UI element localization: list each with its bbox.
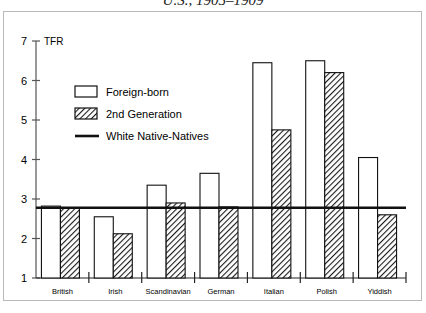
x-axis-label: Scandinavian	[146, 287, 191, 296]
bar	[359, 158, 378, 278]
x-axis-label: Irish	[108, 287, 122, 296]
x-axis-labels: BritishIrishScandinavianGermanItalianPol…	[52, 287, 392, 296]
y-axis-title: TFR	[44, 36, 63, 47]
figure: U.S., 1905–1909 1234567 TFR BritishIrish…	[0, 0, 426, 313]
bar	[94, 217, 113, 278]
bar	[253, 63, 272, 278]
legend: Foreign-born 2nd Generation White Native…	[75, 86, 209, 142]
y-tick-label: 3	[21, 193, 27, 205]
y-tick-label: 6	[21, 75, 27, 87]
legend-label-white-native-natives: White Native-Natives	[106, 130, 209, 142]
bar	[325, 73, 344, 278]
y-tick-label: 1	[21, 272, 27, 284]
y-tick-label: 5	[21, 114, 27, 126]
bar	[219, 207, 238, 278]
bar	[113, 234, 132, 278]
bar	[272, 130, 291, 278]
bar-chart: 1234567 TFR BritishIrishScandinavianGerm…	[0, 0, 426, 313]
x-axis-label: British	[52, 287, 73, 296]
bar	[60, 208, 79, 278]
bar	[306, 61, 325, 278]
x-axis-label: Italian	[264, 287, 284, 296]
x-axis-label: Yiddish	[367, 287, 391, 296]
bar	[147, 185, 166, 278]
legend-label-foreign-born: Foreign-born	[106, 86, 169, 98]
y-tick-label: 4	[21, 154, 27, 166]
y-axis-ticks: 1234567	[21, 35, 40, 284]
x-axis-label: Polish	[316, 287, 336, 296]
bar	[41, 206, 60, 278]
hatched-box-swatch	[75, 108, 97, 119]
legend-label-2nd-generation: 2nd Generation	[106, 108, 182, 120]
x-axis-label: German	[207, 287, 234, 296]
bar	[378, 215, 397, 278]
bar	[166, 203, 185, 278]
bar	[200, 173, 219, 278]
y-tick-label: 2	[21, 233, 27, 245]
open-box-swatch	[75, 86, 97, 97]
y-tick-label: 7	[21, 35, 27, 47]
